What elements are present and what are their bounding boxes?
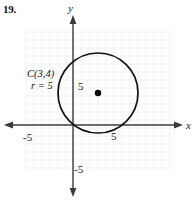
y-tick-positive-5: 5 <box>78 80 84 92</box>
figure-page: 19. <box>0 0 193 200</box>
center-annotation: C(3,4) <box>27 68 55 80</box>
center-dot <box>95 90 101 96</box>
x-tick-positive-5: 5 <box>111 130 117 142</box>
radius-annotation: r = 5 <box>31 80 53 91</box>
coordinate-plane-figure: y x -5 5 5 -5 C(3,4) r = 5 <box>0 0 193 200</box>
x-axis-label: x <box>185 119 191 131</box>
x-tick-negative-5: -5 <box>23 131 33 143</box>
y-axis-label: y <box>67 2 73 14</box>
y-tick-negative-5: -5 <box>74 163 84 175</box>
